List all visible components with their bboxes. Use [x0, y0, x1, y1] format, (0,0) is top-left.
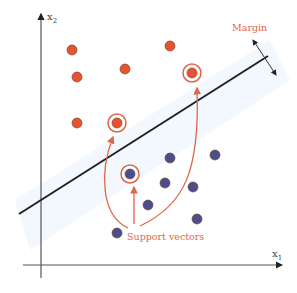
class-b-point [192, 214, 202, 224]
svm-diagram: x2 x1 Margin Support vectors [0, 0, 297, 293]
class-a-point [120, 64, 130, 74]
class-a-point [72, 72, 82, 82]
class-b-point [210, 150, 220, 160]
class-a-point [165, 41, 175, 51]
class-a-point [67, 45, 77, 55]
class-a-point [112, 118, 122, 128]
margin-label: Margin [232, 22, 267, 33]
class-b-point [143, 200, 153, 210]
support-vectors-label: Support vectors [127, 231, 204, 242]
class-a-point [72, 118, 82, 128]
x-axis-label: x1 [272, 248, 282, 262]
class-b-point [188, 182, 198, 192]
class-b-point [112, 228, 122, 238]
hyperplane-line [19, 56, 268, 214]
class-b-point [160, 178, 170, 188]
class-a-point [187, 68, 197, 78]
class-b-point [125, 169, 135, 179]
y-axis-label: x2 [47, 11, 57, 25]
diagram-svg: x2 x1 Margin Support vectors [0, 0, 297, 293]
class-b-point [165, 153, 175, 163]
